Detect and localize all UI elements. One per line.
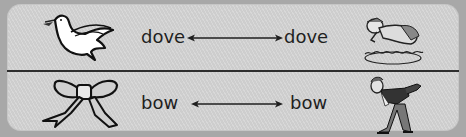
double-headed-arrow-icon — [191, 99, 283, 109]
row-bow: bow bow — [7, 72, 459, 134]
double-headed-arrow-icon — [187, 33, 283, 43]
slide-frame: dove dove — [0, 0, 466, 137]
dove-bird-icon — [41, 12, 121, 64]
ribbon-bow-icon — [35, 75, 131, 131]
left-word-bow: bow — [141, 93, 178, 113]
left-word-dove: dove — [141, 27, 185, 47]
homograph-panel: dove dove — [7, 4, 459, 131]
right-word-bow: bow — [290, 93, 327, 113]
bowing-man-icon — [367, 74, 423, 136]
row-dove: dove dove — [7, 6, 459, 68]
diving-man-icon — [363, 14, 427, 68]
right-word-dove: dove — [284, 27, 328, 47]
